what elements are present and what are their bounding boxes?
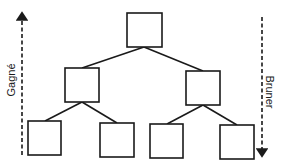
node-leaf-2	[100, 123, 134, 157]
edge-midright-leaf3	[167, 105, 203, 124]
node-leaf-4	[220, 125, 254, 159]
edge-root-midright	[144, 47, 203, 71]
edge-midright-leaf4	[203, 105, 237, 125]
left-axis-label: Gagné	[5, 63, 17, 96]
hierarchy-diagram	[0, 0, 282, 166]
node-mid-right	[186, 71, 220, 105]
edge-root-midleft	[82, 47, 144, 68]
node-leaf-1	[28, 121, 61, 155]
edge-midleft-leaf1	[45, 102, 82, 121]
edge-midleft-leaf2	[82, 102, 117, 123]
node-leaf-3	[150, 124, 183, 158]
node-mid-left	[65, 68, 99, 102]
node-root	[127, 13, 162, 47]
right-axis-label: Bruner	[264, 75, 276, 108]
